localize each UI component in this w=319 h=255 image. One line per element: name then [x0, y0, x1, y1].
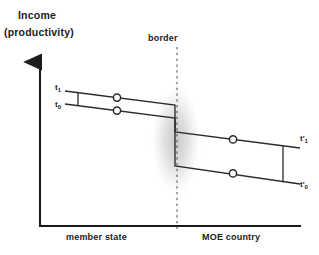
border-label: border	[148, 33, 178, 43]
marker-t1-right	[229, 136, 236, 143]
marker-t1-left	[113, 94, 120, 101]
y-axis-title-line1: Income	[18, 9, 56, 21]
curve-label-t1-right-sub: 1	[305, 138, 308, 144]
region-label-moe-country: MOE country	[202, 232, 260, 242]
curve-label-t1-right-base: t'	[300, 134, 305, 143]
curve-label-t1-left: t1	[55, 83, 61, 92]
curve-label-t0-right-base: t'	[300, 180, 305, 189]
curve-label-t0-right-sub: 0	[305, 184, 308, 190]
curve-label-t1-left-sub: 1	[58, 87, 61, 93]
curve-label-t1-right: t'1	[300, 134, 308, 143]
income-border-diagram: Income (productivity) border member stat…	[0, 0, 319, 255]
region-label-member-state: member state	[66, 232, 127, 242]
curve-label-t0-left-sub: 0	[58, 104, 61, 110]
curve-label-t0-left: t0	[55, 100, 61, 109]
border-shade-band	[150, 82, 202, 198]
marker-t0-right	[229, 170, 236, 177]
curve-label-t0-right: t'0	[300, 180, 308, 189]
y-axis-title-line2: (productivity)	[4, 26, 74, 38]
marker-t0-left	[113, 107, 120, 114]
